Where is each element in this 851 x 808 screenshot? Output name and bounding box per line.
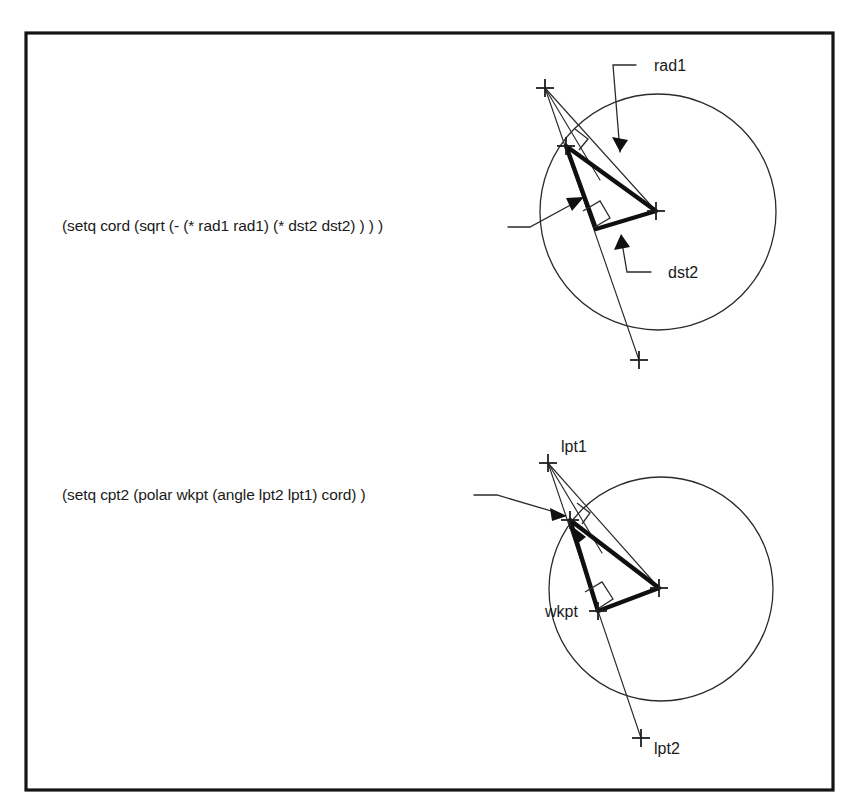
cord-expression-text: (setq cord (sqrt (- (* rad1 rad1) (* dst… (62, 217, 383, 234)
upper-diagram: (setq cord (sqrt (- (* rad1 rad1) (* dst… (62, 57, 776, 369)
upper-right-angle-mark-top (575, 129, 588, 150)
upper-construction-line-lpt1-center (545, 88, 656, 211)
dst2-leader (614, 234, 651, 272)
label-wkpt: wkpt (544, 603, 578, 620)
upper-bold-triangle (566, 146, 656, 229)
page-border (26, 33, 833, 790)
label-rad1: rad1 (654, 57, 686, 74)
dst2-arrow-head (614, 234, 630, 250)
rad1-arrow-head (612, 137, 628, 152)
label-lpt1: lpt1 (561, 438, 587, 455)
cpt2-expression-text: (setq cpt2 (polar wkpt (angle lpt2 lpt1)… (62, 486, 366, 503)
cord-leader-arrow-head (566, 197, 584, 211)
lower-circle (549, 477, 773, 701)
lower-construction-line-lpt1-center (548, 463, 659, 588)
label-dst2: dst2 (668, 264, 698, 281)
lower-diagram: (setq cpt2 (polar wkpt (angle lpt2 lpt1)… (62, 438, 773, 757)
cord-expression-leader (508, 197, 584, 227)
lower-bold-triangle (570, 520, 659, 611)
upper-cross-lpt2 (630, 351, 648, 369)
cpt2-expression-leader (474, 495, 567, 521)
rad1-leader (612, 65, 636, 152)
lower-cross-lpt2 (632, 729, 650, 747)
figure-canvas: (setq cord (sqrt (- (* rad1 rad1) (* dst… (0, 0, 851, 808)
page-root: (setq cord (sqrt (- (* rad1 rad1) (* dst… (0, 0, 851, 808)
label-lpt2: lpt2 (654, 740, 680, 757)
